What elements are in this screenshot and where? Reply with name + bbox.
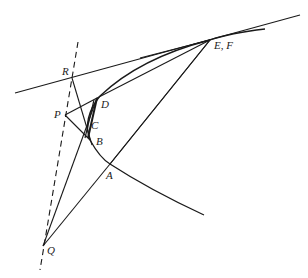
- label-D: D: [101, 99, 109, 110]
- label-EF: E, F: [214, 40, 233, 51]
- label-C: C: [91, 120, 98, 131]
- label-P: P: [54, 109, 61, 120]
- line-A-EF: [110, 40, 210, 164]
- diagram-canvas: R E, F P D C B A Q: [0, 0, 308, 278]
- label-B: B: [96, 136, 103, 147]
- line-EF-tangent2: [140, 40, 210, 58]
- line-EF-D: [97, 40, 210, 98]
- line-Q-A: [43, 164, 110, 246]
- label-A: A: [106, 170, 113, 181]
- label-Q: Q: [47, 245, 55, 256]
- geometry-figure: [0, 0, 308, 278]
- label-R: R: [62, 66, 69, 77]
- dashed-line: [40, 42, 78, 270]
